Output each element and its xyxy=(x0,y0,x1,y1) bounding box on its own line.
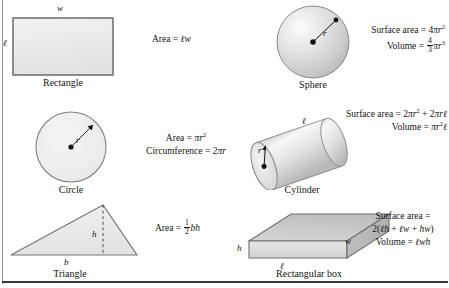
cylinder-volume-expression: πr2ℓ xyxy=(431,122,447,132)
rectangle-caption: Rectangle xyxy=(13,77,113,88)
box-volume-expression: ℓwh xyxy=(415,237,430,247)
circle-area-expression: πr2 xyxy=(194,133,206,143)
box-surface-area-expression: 2(ℓh + ℓw + hw) xyxy=(372,224,433,234)
triangle-height-label: h xyxy=(92,229,97,239)
bottom-border-rule xyxy=(2,281,448,283)
box-surface-area-label: Surface area = xyxy=(376,211,431,221)
box-volume-label: Volume = xyxy=(376,237,416,247)
cylinder-formulas: Surface area = 2πr2 + 2πrℓ Volume = πr2ℓ xyxy=(305,108,447,134)
circle-radius-label: r xyxy=(76,135,80,145)
circle-caption: Circle xyxy=(31,184,111,195)
sphere-caption: Sphere xyxy=(273,79,353,90)
rectangle-length-label: ℓ xyxy=(3,38,7,48)
circle-formulas: Area = πr2 Circumference = 2πr xyxy=(131,132,241,158)
triangle-base-label: b xyxy=(64,257,69,267)
box-width-label: w xyxy=(345,236,351,246)
circle-circumference-label: Circumference = xyxy=(146,146,213,156)
box-formulas: Surface area = 2(ℓh + ℓw + hw) Volume = … xyxy=(358,210,448,249)
geometry-formula-sheet: w ℓ Rectangle Area = ℓw r Sphere Surface… xyxy=(0,0,449,288)
triangle-area-expression: 12bh xyxy=(184,223,200,233)
circle-area-label: Area = xyxy=(166,133,195,143)
circle-circumference-expression: 2πr xyxy=(213,146,226,156)
triangle-caption: Triangle xyxy=(30,268,110,279)
sphere-surface-area-expression: 4πr2 xyxy=(429,25,445,35)
sphere-volume-label: Volume = xyxy=(387,41,427,51)
cylinder-radius-label: r xyxy=(258,145,262,155)
sphere-surface-area-label: Surface area = xyxy=(371,25,428,35)
rectangle-area-label: Area = xyxy=(152,34,181,44)
rectangle-formulas: Area = ℓw xyxy=(152,33,191,46)
cylinder-surface-area-label: Surface area = xyxy=(346,109,403,119)
triangle-shape xyxy=(5,198,145,262)
box-height-label: h xyxy=(237,243,242,253)
circle-shape xyxy=(33,109,109,185)
sphere-formulas: Surface area = 4πr2 Volume = 43πr3 xyxy=(341,24,445,54)
rectangle-width-label: w xyxy=(57,3,63,13)
cylinder-surface-area-expression: 2πr2 + 2πrℓ xyxy=(403,109,447,119)
rectangle-shape xyxy=(8,12,120,82)
cylinder-caption: Cylinder xyxy=(262,184,342,195)
box-caption: Rectangular box xyxy=(249,268,369,279)
triangle-formulas: Area = 12bh xyxy=(155,219,200,236)
rectangle-area-expression: ℓw xyxy=(181,34,191,44)
triangle-area-label: Area = xyxy=(155,223,184,233)
cylinder-volume-label: Volume = xyxy=(392,122,432,132)
sphere-radius-label: r xyxy=(323,28,327,38)
sphere-volume-expression: 43πr3 xyxy=(426,41,445,51)
